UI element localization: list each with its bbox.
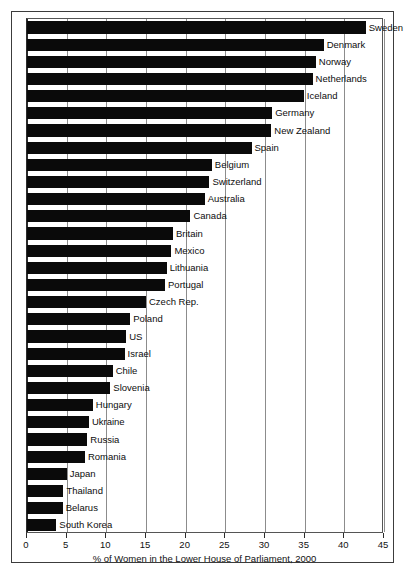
bar-category-label: Sweden [366, 21, 403, 34]
bar [27, 365, 113, 377]
bar-category-label: Israel [125, 347, 151, 360]
bar [27, 468, 67, 480]
bar-category-label: US [126, 330, 142, 343]
x-axis: 051015202530354045 % of Women in the Low… [26, 533, 383, 563]
bar-category-label: Australia [205, 192, 245, 205]
bar [27, 296, 146, 308]
bar [27, 279, 165, 291]
x-tick-label: 5 [63, 539, 68, 550]
x-tick-mark [224, 533, 225, 538]
bar-category-label: South Korea [56, 518, 112, 531]
bar-category-label: Spain [252, 141, 279, 154]
bar-row: Hungary [27, 397, 382, 414]
bar-category-label: Iceland [304, 89, 338, 102]
bar [27, 159, 212, 171]
x-tick-label: 15 [140, 539, 151, 550]
bar-row: Germany [27, 105, 382, 122]
bar-row: Romania [27, 448, 382, 465]
bar-category-label: Russia [87, 433, 119, 446]
bar-row: Czech Rep. [27, 294, 382, 311]
bar-category-label: Switzerland [209, 175, 261, 188]
bar-row: Mexico [27, 242, 382, 259]
bar-category-label: Portugal [165, 278, 203, 291]
bar-category-label: Poland [130, 312, 163, 325]
page-caption-clipped [0, 572, 406, 584]
bar-row: Belgium [27, 156, 382, 173]
bar [27, 416, 89, 428]
bar-category-label: Netherlands [313, 72, 367, 85]
bar [27, 73, 313, 85]
x-tick-label: 20 [179, 539, 190, 550]
bar-category-label: Denmark [324, 38, 366, 51]
x-tick-label: 0 [23, 539, 28, 550]
bar-category-label: Thailand [63, 484, 102, 497]
bar-row: Israel [27, 345, 382, 362]
bar-row: Britain [27, 225, 382, 242]
bar [27, 90, 304, 102]
x-tick-mark [304, 533, 305, 538]
bar-category-label: Czech Rep. [146, 295, 199, 308]
x-tick-mark [145, 533, 146, 538]
x-tick-label: 25 [219, 539, 230, 550]
bar-category-label: Japan [67, 467, 96, 480]
x-tick-label: 10 [100, 539, 111, 550]
bar [27, 124, 271, 136]
bar [27, 399, 93, 411]
bar-category-label: Belgium [212, 158, 249, 171]
bar-row: Ukraine [27, 414, 382, 431]
bar-row: US [27, 328, 382, 345]
bar [27, 330, 126, 342]
x-axis-title: % of Women in the Lower House of Parliam… [26, 553, 383, 564]
bar-row: Sweden [27, 19, 382, 36]
x-tick-mark [343, 533, 344, 538]
bar-row: Slovenia [27, 380, 382, 397]
bar-category-label: Belarus [63, 501, 98, 514]
bar [27, 348, 125, 360]
bar-row: Iceland [27, 88, 382, 105]
bar [27, 502, 63, 514]
x-tick-label: 45 [378, 539, 389, 550]
x-tick-mark [105, 533, 106, 538]
chart-figure-frame: SwedenDenmarkNorwayNetherlandsIcelandGer… [11, 11, 394, 563]
bar-category-label: Norway [316, 55, 351, 68]
bar-row: New Zealand [27, 122, 382, 139]
bar-category-label: Romania [85, 450, 126, 463]
bar [27, 142, 252, 154]
bar [27, 210, 190, 222]
bar-row: Lithuania [27, 259, 382, 276]
bar-row: Portugal [27, 277, 382, 294]
bar-category-label: Canada [190, 209, 226, 222]
bar-category-label: Mexico [171, 244, 204, 257]
bar [27, 262, 167, 274]
bar [27, 21, 366, 33]
x-tick-mark [264, 533, 265, 538]
x-tick-label: 35 [298, 539, 309, 550]
x-tick-label: 30 [259, 539, 270, 550]
bar-row: Russia [27, 431, 382, 448]
bar-category-label: Slovenia [110, 381, 149, 394]
bar [27, 451, 85, 463]
bar [27, 433, 87, 445]
bar [27, 107, 272, 119]
bar-row: South Korea [27, 517, 382, 534]
x-tick-mark [26, 533, 27, 538]
bar-category-label: Britain [173, 227, 203, 240]
bar-row: Netherlands [27, 71, 382, 88]
bar [27, 193, 205, 205]
bar-category-label: Germany [272, 106, 314, 119]
bar [27, 56, 316, 68]
bar-row: Japan [27, 465, 382, 482]
bar-category-label: New Zealand [271, 124, 330, 137]
bar-row: Belarus [27, 500, 382, 517]
bar-row: Spain [27, 139, 382, 156]
x-tick-mark [66, 533, 67, 538]
bars-layer: SwedenDenmarkNorwayNetherlandsIcelandGer… [27, 19, 382, 532]
bar [27, 245, 171, 257]
bar-row: Poland [27, 311, 382, 328]
bar [27, 313, 130, 325]
plot-area: SwedenDenmarkNorwayNetherlandsIcelandGer… [26, 18, 383, 533]
bar-row: Norway [27, 53, 382, 70]
bar-row: Switzerland [27, 174, 382, 191]
bar [27, 519, 56, 531]
bar-row: Australia [27, 191, 382, 208]
